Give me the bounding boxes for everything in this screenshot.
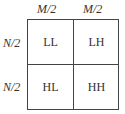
row-label-1: N/2	[3, 36, 20, 51]
cell-lh: LH	[74, 20, 119, 64]
cell-hl: HL	[28, 65, 73, 109]
row-label-2: N/2	[3, 80, 20, 95]
cell-hh: HH	[74, 65, 119, 109]
subband-grid: LL LH HL HH	[27, 19, 119, 110]
column-label-2: M/2	[83, 2, 102, 17]
column-label-1: M/2	[37, 2, 56, 17]
cell-ll: LL	[28, 20, 73, 64]
